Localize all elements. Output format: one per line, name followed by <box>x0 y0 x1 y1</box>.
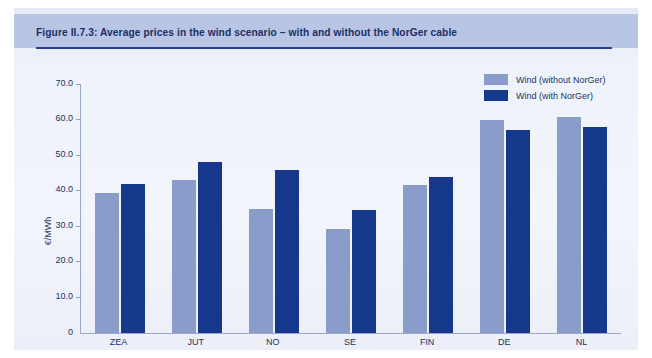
bar-group <box>390 84 467 333</box>
bar <box>352 210 376 333</box>
bar <box>429 177 453 334</box>
plot-area: 70.060.050.040.030.020.010.00 <box>80 84 621 334</box>
figure-title: Figure II.7.3: Average prices in the win… <box>36 27 457 38</box>
bar <box>249 209 273 333</box>
y-axis-title: €/MWh <box>43 191 53 271</box>
y-axis-tick-label: 60.0 <box>55 113 73 123</box>
x-axis-labels: ZEAJUTNOSEFINDENL <box>80 337 620 347</box>
bar-group <box>467 84 544 333</box>
y-axis-tick-label: 40.0 <box>55 184 73 194</box>
figure-title-band: Figure II.7.3: Average prices in the win… <box>14 14 638 48</box>
y-axis-tick-label: 0 <box>68 327 73 337</box>
bar <box>557 117 581 333</box>
x-axis-label: SE <box>311 337 388 347</box>
bar-group <box>158 84 235 333</box>
y-axis-tick-label: 20.0 <box>55 255 73 265</box>
bar-group <box>235 84 312 333</box>
chart-container: Wind (without NorGer)Wind (with NorGer) … <box>14 48 638 350</box>
bar <box>403 185 427 333</box>
bar-group <box>312 84 389 333</box>
x-axis-label: JUT <box>157 337 234 347</box>
x-axis-label: NL <box>543 337 620 347</box>
bar <box>326 229 350 333</box>
y-axis-tick-label: 70.0 <box>55 78 73 88</box>
bar <box>172 180 196 333</box>
x-axis-label: DE <box>466 337 543 347</box>
bar <box>480 120 504 333</box>
legend-label: Wind (without NorGer) <box>516 75 606 85</box>
y-axis-tick-label: 30.0 <box>55 220 73 230</box>
x-axis-label: FIN <box>389 337 466 347</box>
bar-group <box>81 84 158 333</box>
bar <box>95 193 119 334</box>
bar <box>583 127 607 333</box>
y-axis-tick-label: 50.0 <box>55 149 73 159</box>
bar-groups <box>81 84 621 333</box>
bar <box>506 130 530 333</box>
bar-group <box>544 84 621 333</box>
x-axis-label: ZEA <box>80 337 157 347</box>
bar <box>275 170 299 333</box>
x-axis-label: NO <box>234 337 311 347</box>
bar <box>121 184 145 333</box>
bar <box>198 162 222 333</box>
figure-card: Figure II.7.3: Average prices in the win… <box>14 8 638 350</box>
y-axis-tick-label: 10.0 <box>55 291 73 301</box>
